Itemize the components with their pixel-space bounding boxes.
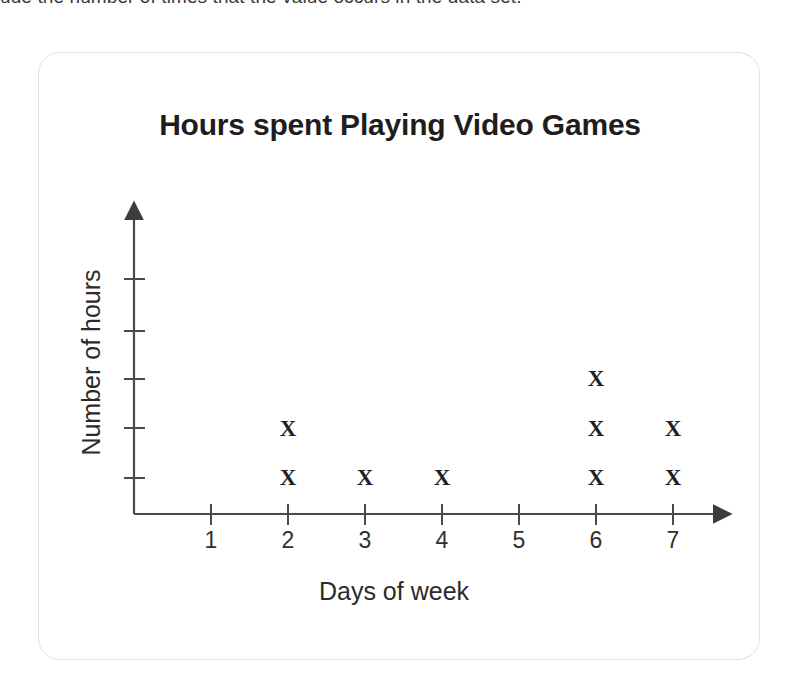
x-tick-label: 1 [191,527,231,554]
data-point-marker: X [658,463,688,493]
data-point-marker: X [427,463,457,493]
y-axis-title: Number of hours [77,248,106,478]
data-point-marker: X [581,463,611,493]
data-point-marker: X [658,414,688,444]
x-axis-title: Days of week [194,577,594,606]
data-point-marker: X [581,364,611,394]
data-point-marker: X [273,414,303,444]
data-point-marker: X [273,463,303,493]
plot-area: Number of hours Days of week 1 2 3 4 5 6… [39,53,761,661]
x-tick-label: 2 [268,527,308,554]
x-tick-label: 6 [576,527,616,554]
x-tick-label: 3 [345,527,385,554]
figure-card: Hours spent Playing Video Games [38,52,760,660]
data-point-marker: X [350,463,380,493]
x-tick-label: 5 [499,527,539,554]
instruction-text: ude the number of times that the value o… [0,0,808,6]
x-tick-label: 4 [422,527,462,554]
data-point-marker: X [581,414,611,444]
axes-svg [39,53,761,661]
x-tick-label: 7 [653,527,693,554]
